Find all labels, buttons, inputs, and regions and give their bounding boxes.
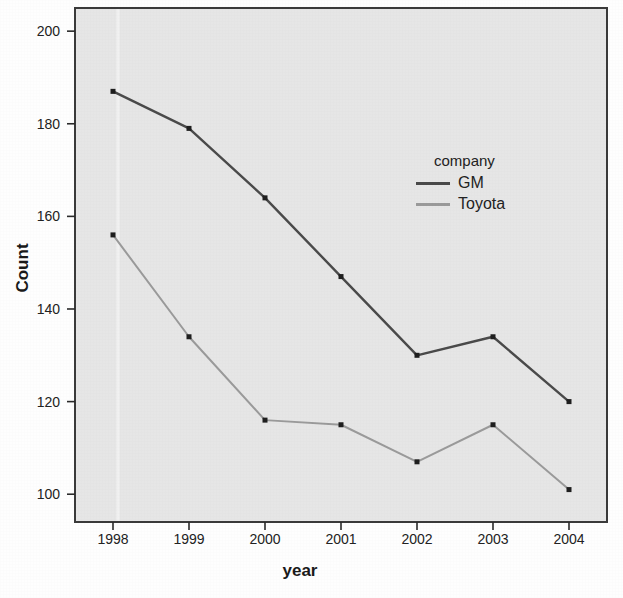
- x-tick-label-2003: 2003: [463, 531, 523, 547]
- data-point-toyota-2002: [415, 459, 420, 464]
- legend-label-gm: GM: [458, 174, 484, 192]
- data-point-gm-1999: [187, 126, 192, 131]
- y-tick-label-160: 160: [14, 208, 60, 224]
- data-point-gm-1998: [111, 89, 116, 94]
- legend-item-toyota: Toyota: [416, 195, 505, 213]
- line-chart: 100120140160180200 199819992000200120022…: [0, 0, 623, 598]
- x-tick-label-2001: 2001: [311, 531, 371, 547]
- legend: company GMToyota: [416, 152, 505, 216]
- y-tick-label-100: 100: [14, 486, 60, 502]
- data-point-gm-2003: [491, 334, 496, 339]
- data-point-toyota-2004: [567, 487, 572, 492]
- data-point-gm-2001: [339, 274, 344, 279]
- legend-entries: GMToyota: [416, 174, 505, 213]
- data-point-toyota-2000: [263, 418, 268, 423]
- data-point-toyota-2003: [491, 422, 496, 427]
- plot-area: [0, 0, 623, 598]
- plot-background: [75, 8, 607, 522]
- y-tick-label-180: 180: [14, 116, 60, 132]
- x-tick-label-2002: 2002: [387, 531, 447, 547]
- legend-title: company: [434, 152, 505, 169]
- data-point-gm-2002: [415, 353, 420, 358]
- x-axis-title: year: [210, 561, 390, 581]
- legend-swatch-toyota: [416, 203, 450, 206]
- data-point-toyota-1998: [111, 232, 116, 237]
- y-tick-label-200: 200: [14, 23, 60, 39]
- legend-label-toyota: Toyota: [458, 195, 505, 213]
- data-point-toyota-1999: [187, 334, 192, 339]
- legend-swatch-gm: [416, 182, 450, 185]
- x-tick-label-2000: 2000: [235, 531, 295, 547]
- y-axis-title: Count: [13, 223, 33, 313]
- x-tick-label-1998: 1998: [83, 531, 143, 547]
- y-tick-label-120: 120: [14, 394, 60, 410]
- x-tick-label-2004: 2004: [539, 531, 599, 547]
- data-point-gm-2004: [567, 399, 572, 404]
- data-point-gm-2000: [263, 195, 268, 200]
- data-point-toyota-2001: [339, 422, 344, 427]
- x-tick-label-1999: 1999: [159, 531, 219, 547]
- legend-item-gm: GM: [416, 174, 505, 192]
